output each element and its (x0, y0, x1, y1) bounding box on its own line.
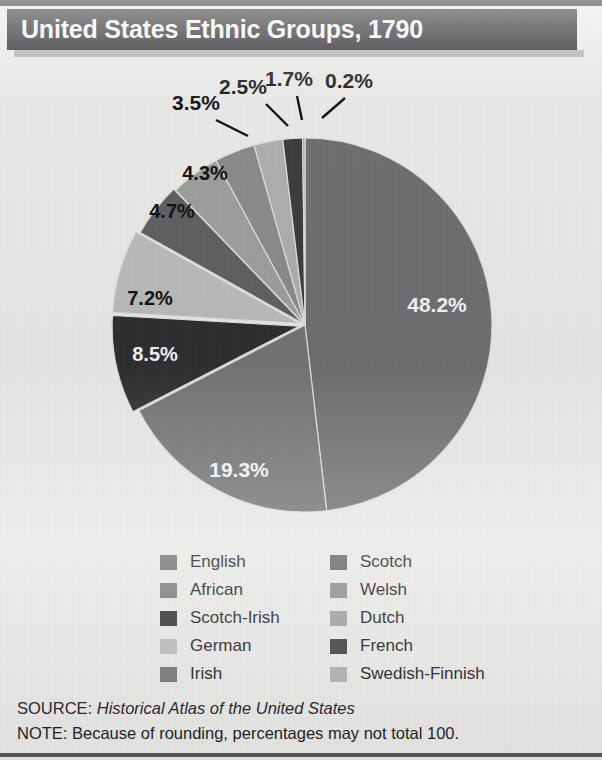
pie-value-label: 7.2% (127, 287, 173, 309)
leader-line (216, 120, 248, 136)
legend-item-scotch: Scotch (330, 548, 485, 576)
source-title: Historical Atlas of the United States (97, 699, 355, 717)
pie-value-label: 19.3% (209, 458, 269, 481)
leader-line (266, 104, 288, 126)
legend-label: African (190, 580, 243, 600)
legend-column-right: ScotchWelshDutchFrenchSwedish-Finnish (330, 548, 485, 688)
legend-item-african: African (160, 576, 280, 604)
page-title: United States Ethnic Groups, 1790 (7, 15, 423, 44)
legend-label: Dutch (360, 608, 404, 628)
legend-swatch-icon (330, 639, 347, 654)
pie-value-label: 8.5% (132, 343, 178, 365)
pie-value-label: 1.7% (265, 67, 313, 90)
legend-item-swedish-finnish: Swedish-Finnish (330, 660, 485, 688)
legend-item-english: English (160, 548, 280, 576)
legend-item-dutch: Dutch (330, 604, 485, 632)
legend-swatch-icon (330, 611, 347, 626)
legend-swatch-icon (330, 583, 347, 598)
legend-item-scotch-irish: Scotch-Irish (160, 604, 280, 632)
leader-line (322, 98, 345, 118)
bottom-divider (0, 753, 602, 757)
legend-swatch-icon (160, 639, 177, 654)
pie-chart-svg: 48.2%19.3%8.5%7.2%4.7%4.3%3.5%2.5%1.7%0.… (0, 58, 602, 550)
legend-swatch-icon (330, 555, 347, 570)
pie-value-label: 0.2% (325, 69, 373, 92)
pie-slices-group (112, 138, 492, 512)
pie-value-label: 4.7% (149, 200, 195, 222)
pie-value-label: 48.2% (407, 293, 467, 316)
legend-label: Irish (190, 664, 222, 684)
legend-column-left: EnglishAfricanScotch-IrishGermanIrish (160, 548, 280, 688)
legend-label: German (190, 636, 251, 656)
pie-leader-lines-group (216, 96, 345, 136)
legend-item-welsh: Welsh (330, 576, 485, 604)
pie-chart-area: 48.2%19.3%8.5%7.2%4.7%4.3%3.5%2.5%1.7%0.… (0, 58, 602, 550)
legend-swatch-icon (330, 667, 347, 682)
legend-label: French (360, 636, 413, 656)
legend-label: Scotch (360, 552, 412, 572)
title-bar-shadow (14, 50, 584, 57)
source-label: SOURCE: (17, 699, 92, 717)
pie-value-label: 3.5% (172, 91, 220, 114)
legend-swatch-icon (160, 583, 177, 598)
legend-label: Scotch-Irish (190, 608, 280, 628)
pie-value-label: 4.3% (182, 162, 228, 184)
legend-swatch-icon (160, 667, 177, 682)
footer: SOURCE: Historical Atlas of the United S… (0, 696, 602, 746)
legend-label: English (190, 552, 246, 572)
pie-slice-english (305, 138, 492, 511)
legend-item-french: French (330, 632, 485, 660)
legend-swatch-icon (160, 611, 177, 626)
legend-swatch-icon (160, 555, 177, 570)
legend: EnglishAfricanScotch-IrishGermanIrish Sc… (0, 548, 602, 690)
note-line: NOTE: Because of rounding, percentages m… (0, 721, 602, 746)
top-divider (0, 0, 602, 6)
legend-label: Swedish-Finnish (360, 664, 485, 684)
legend-item-irish: Irish (160, 660, 280, 688)
legend-label: Welsh (360, 580, 407, 600)
title-bar: United States Ethnic Groups, 1790 (7, 9, 577, 50)
chart-figure: United States Ethnic Groups, 1790 48.2%1… (0, 0, 602, 760)
pie-value-label: 2.5% (219, 75, 267, 98)
leader-line (297, 96, 302, 120)
source-line: SOURCE: Historical Atlas of the United S… (0, 696, 602, 721)
legend-item-german: German (160, 632, 280, 660)
